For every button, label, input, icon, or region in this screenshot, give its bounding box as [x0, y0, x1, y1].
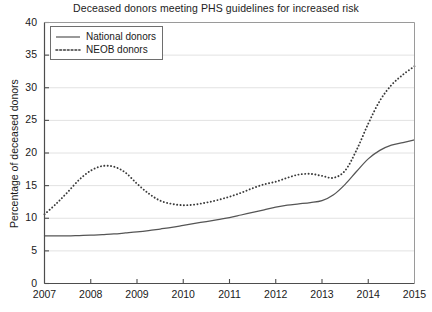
y-tick-label: 10 — [3, 211, 37, 223]
chart-legend: National donors NEOB donors — [50, 26, 163, 60]
x-tick-label: 2007 — [22, 288, 68, 300]
y-tick-label: 25 — [3, 113, 37, 125]
y-tick-label: 5 — [3, 244, 37, 256]
series-line-national — [45, 140, 415, 236]
y-tick-label: 15 — [3, 179, 37, 191]
x-tick-label: 2012 — [253, 288, 299, 300]
x-tick-label: 2009 — [114, 288, 160, 300]
legend-label-national: National donors — [86, 31, 156, 42]
legend-swatch-solid-icon — [55, 32, 81, 42]
x-tick-label: 2008 — [68, 288, 114, 300]
x-tick-label: 2011 — [207, 288, 253, 300]
legend-item-neob: NEOB donors — [55, 43, 156, 56]
x-tick-label: 2013 — [299, 288, 345, 300]
series-line-neob — [45, 66, 415, 214]
chart-container: Deceased donors meeting PHS guidelines f… — [0, 0, 432, 312]
series-layer — [45, 66, 415, 236]
y-tick-label: 40 — [3, 16, 37, 28]
x-tick-label: 2010 — [160, 288, 206, 300]
legend-label-neob: NEOB donors — [86, 44, 148, 55]
x-tick-label: 2014 — [345, 288, 391, 300]
x-tick-label: 2015 — [392, 288, 432, 300]
y-tick-label: 20 — [3, 146, 37, 158]
y-tick-label: 35 — [3, 48, 37, 60]
y-tick-label: 30 — [3, 81, 37, 93]
legend-item-national: National donors — [55, 30, 156, 43]
legend-swatch-dotted-icon — [55, 45, 81, 55]
